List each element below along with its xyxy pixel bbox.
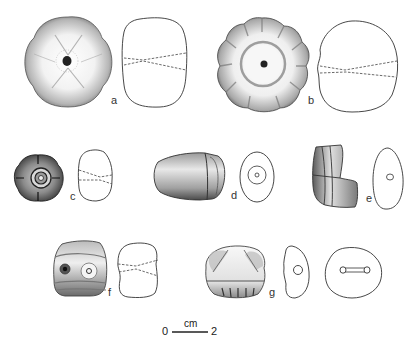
label-c: c <box>70 191 76 202</box>
bead-b-top-view <box>218 18 310 112</box>
bead-b-side-outline <box>318 21 398 112</box>
label-b: b <box>308 95 314 106</box>
bead-g-front-view <box>206 246 265 298</box>
label-a: a <box>111 95 117 106</box>
scale-start-label: 0 <box>162 326 168 337</box>
bead-f-side-outline <box>118 243 158 298</box>
bead-e-end-view <box>373 148 403 209</box>
bead-a-top-view <box>25 17 112 107</box>
bead-drawings <box>0 0 416 350</box>
label-g: g <box>269 287 275 298</box>
bead-d-side-view <box>154 153 225 200</box>
bead-c-top-view <box>14 155 63 201</box>
label-d: d <box>231 190 237 201</box>
scale-unit-label: cm <box>184 319 197 329</box>
bead-e-side-view <box>313 145 358 207</box>
scale-end-label: 2 <box>211 326 217 337</box>
label-e: e <box>366 193 372 204</box>
bead-f-front-view <box>54 241 107 296</box>
label-f: f <box>108 287 111 298</box>
bead-g-top-outline <box>325 247 381 298</box>
bead-c-side-outline <box>78 150 112 201</box>
bead-d-end-view <box>240 152 274 202</box>
bead-a-side-outline <box>122 18 187 107</box>
bead-g-side-section <box>284 246 309 298</box>
